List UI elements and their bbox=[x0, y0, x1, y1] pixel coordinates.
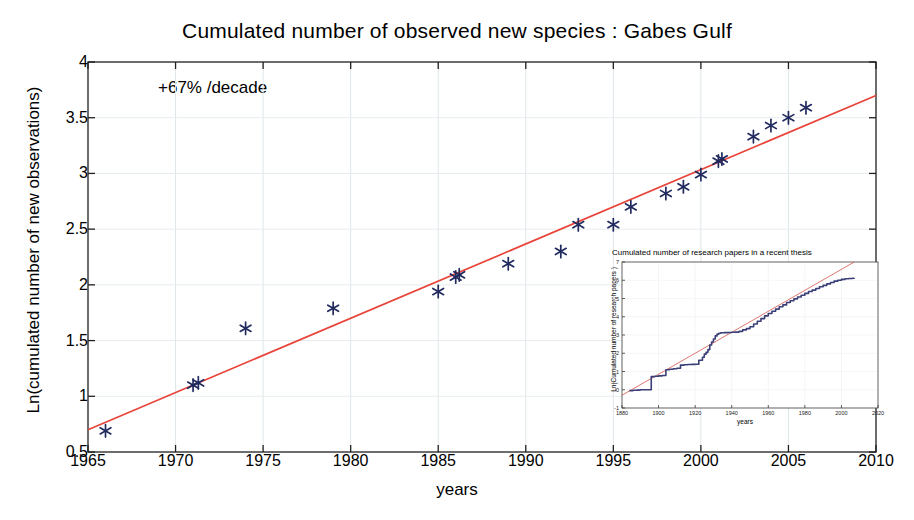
data-point-marker bbox=[678, 181, 689, 193]
data-point-marker bbox=[766, 119, 777, 131]
data-point-marker bbox=[193, 377, 204, 389]
data-point-marker bbox=[240, 322, 251, 334]
data-point-marker bbox=[503, 257, 514, 269]
data-point-marker bbox=[433, 285, 444, 297]
data-point-marker bbox=[555, 245, 566, 257]
data-point-marker bbox=[660, 187, 671, 199]
data-point-marker bbox=[748, 130, 759, 142]
inset-chart: Cumulated number of research papers in a… bbox=[590, 248, 890, 436]
inset-plot bbox=[590, 248, 890, 436]
data-point-marker bbox=[100, 425, 111, 437]
data-point-marker bbox=[328, 302, 339, 314]
data-point-marker bbox=[696, 168, 707, 180]
data-point-marker bbox=[625, 201, 636, 213]
figure-container: Cumulated number of observed new species… bbox=[0, 0, 914, 520]
data-point-marker bbox=[801, 101, 812, 113]
